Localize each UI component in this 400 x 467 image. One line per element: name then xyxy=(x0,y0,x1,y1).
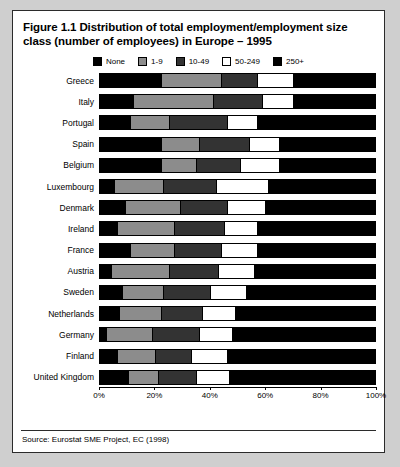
bar-segment-none xyxy=(100,286,122,299)
bar-segment-250 xyxy=(254,265,375,278)
bar-segment-none xyxy=(100,307,119,320)
x-tick-mark xyxy=(210,387,211,390)
bar-segment-50-249 xyxy=(218,265,254,278)
bar-row: Denmark xyxy=(21,197,376,218)
chart-plot-area: GreeceItalyPortugalSpainBelgiumLuxembour… xyxy=(21,70,376,388)
bar-segment-10-49 xyxy=(180,201,227,214)
bar-segment-50-249 xyxy=(249,138,279,151)
bar-segment-none xyxy=(100,138,161,151)
y-axis-label: Luxembourg xyxy=(21,182,99,192)
bar-segment-1-9 xyxy=(125,201,180,214)
bar-segment-1-9 xyxy=(111,265,169,278)
x-tick-label: 80% xyxy=(313,391,329,400)
y-axis-label: Spain xyxy=(21,139,99,149)
legend-item-50-249: 50-249 xyxy=(222,57,260,66)
bar-segment-1-9 xyxy=(117,350,156,363)
figure-panel: Figure 1.1 Distribution of total employm… xyxy=(12,10,385,453)
bar-row: Belgium xyxy=(21,155,376,176)
stacked-bar xyxy=(99,137,376,152)
bar-segment-50-249 xyxy=(221,244,257,257)
y-axis-label: Denmark xyxy=(21,203,99,213)
bar-segment-50-249 xyxy=(191,350,227,363)
legend-item-1-9: 1-9 xyxy=(138,57,163,66)
bar-segment-250 xyxy=(235,307,375,320)
bar-segment-250 xyxy=(227,350,376,363)
x-tick-mark xyxy=(265,387,266,390)
stacked-bar xyxy=(99,306,376,321)
bar-segment-10-49 xyxy=(199,138,249,151)
bar-segment-250 xyxy=(279,138,375,151)
bar-row: Italy xyxy=(21,91,376,112)
y-axis-label: Sweden xyxy=(21,287,99,297)
legend-swatch-10-49 xyxy=(176,57,185,66)
stacked-bar xyxy=(99,179,376,194)
legend-swatch-1-9 xyxy=(138,57,147,66)
bar-segment-none xyxy=(100,222,117,235)
stacked-bar xyxy=(99,73,376,88)
stacked-bar xyxy=(99,200,376,215)
bar-segment-10-49 xyxy=(174,244,221,257)
x-tick-mark xyxy=(99,387,100,390)
bar-row: Portugal xyxy=(21,112,376,133)
bar-segment-none xyxy=(100,350,117,363)
bar-segment-1-9 xyxy=(122,286,163,299)
bar-segment-50-249 xyxy=(227,116,257,129)
bar-segment-10-49 xyxy=(163,180,215,193)
bar-segment-none xyxy=(100,265,111,278)
bar-row: Ireland xyxy=(21,218,376,239)
stacked-bar xyxy=(99,370,376,385)
legend-label-50-249: 50-249 xyxy=(235,57,260,66)
bar-segment-1-9 xyxy=(130,244,174,257)
bar-segment-none xyxy=(100,95,133,108)
bar-segment-50-249 xyxy=(202,307,235,320)
figure-title: Figure 1.1 Distribution of total employm… xyxy=(23,20,374,48)
bar-segment-10-49 xyxy=(155,350,191,363)
source-text: Source: Eurostat SME Project, EC (1998) xyxy=(21,435,376,444)
y-axis-label: Ireland xyxy=(21,224,99,234)
x-tick-mark xyxy=(376,387,377,390)
x-tick-label: 40% xyxy=(202,391,218,400)
x-axis: 0%20%40%60%80%100% xyxy=(21,387,376,407)
bar-row: Sweden xyxy=(21,282,376,303)
bar-row: France xyxy=(21,240,376,261)
bar-segment-1-9 xyxy=(106,328,153,341)
bar-segment-250 xyxy=(257,222,375,235)
y-axis-label: France xyxy=(21,245,99,255)
bar-segment-250 xyxy=(257,244,375,257)
stacked-bar xyxy=(99,264,376,279)
bar-segment-1-9 xyxy=(161,138,200,151)
bar-segment-250 xyxy=(232,328,375,341)
bar-segment-10-49 xyxy=(163,286,210,299)
legend-label-250-plus: 250+ xyxy=(286,57,304,66)
source-note: Source: Eurostat SME Project, EC (1998) xyxy=(21,430,376,444)
bar-row: Luxembourg xyxy=(21,176,376,197)
bar-segment-50-249 xyxy=(227,201,266,214)
bar-segment-none xyxy=(100,116,130,129)
y-axis-label: Austria xyxy=(21,266,99,276)
legend-item-10-49: 10-49 xyxy=(176,57,209,66)
page-background: Figure 1.1 Distribution of total employm… xyxy=(0,0,400,467)
bar-segment-50-249 xyxy=(262,95,292,108)
bar-segment-250 xyxy=(257,116,375,129)
stacked-bar xyxy=(99,94,376,109)
bar-segment-250 xyxy=(246,286,375,299)
bar-row: Finland xyxy=(21,345,376,366)
bar-segment-10-49 xyxy=(152,328,199,341)
x-tick-label: 60% xyxy=(257,391,273,400)
x-tick-label: 100% xyxy=(366,391,386,400)
y-axis-label: Italy xyxy=(21,97,99,107)
bar-segment-50-249 xyxy=(224,222,257,235)
bar-segment-10-49 xyxy=(174,222,224,235)
legend-label-10-49: 10-49 xyxy=(189,57,209,66)
bar-segment-50-249 xyxy=(216,180,268,193)
bar-segment-250 xyxy=(293,74,376,87)
bar-segment-10-49 xyxy=(169,265,219,278)
bar-segment-10-49 xyxy=(169,116,227,129)
x-axis-ticks: 0%20%40%60%80%100% xyxy=(99,387,376,403)
stacked-bar xyxy=(99,115,376,130)
bar-segment-none xyxy=(100,159,161,172)
bar-segment-10-49 xyxy=(196,159,240,172)
y-axis-label: Netherlands xyxy=(21,309,99,319)
bar-segment-50-249 xyxy=(196,371,229,384)
bar-segment-250 xyxy=(229,371,375,384)
